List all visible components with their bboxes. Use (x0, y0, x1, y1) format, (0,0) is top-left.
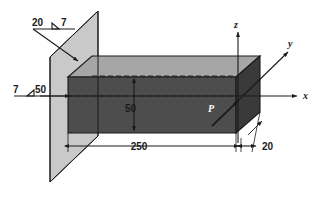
height-dimension-label: 50 (125, 103, 137, 114)
axis-x-label: x (302, 90, 308, 101)
upper-weld-throat-label: 7 (61, 17, 67, 28)
axis-z-label: z (233, 19, 238, 30)
axis-y-label: y (287, 38, 293, 49)
point-p-label: P (208, 103, 215, 114)
lower-weld-throat-label: 50 (35, 84, 47, 95)
lower-weld-leg-label: 7 (13, 84, 19, 95)
fillet-weld-triangle-icon (52, 23, 59, 29)
diagram-canvas: 20 7 7 50 z x y 5 (0, 0, 322, 205)
length-dimension-label: 250 (131, 141, 148, 152)
upper-weld-leg-label: 20 (32, 17, 44, 28)
fillet-weld-triangle-icon-2 (27, 90, 34, 96)
width-dimension-label: 20 (262, 141, 274, 152)
engineering-diagram: 20 7 7 50 z x y 5 (0, 0, 322, 205)
